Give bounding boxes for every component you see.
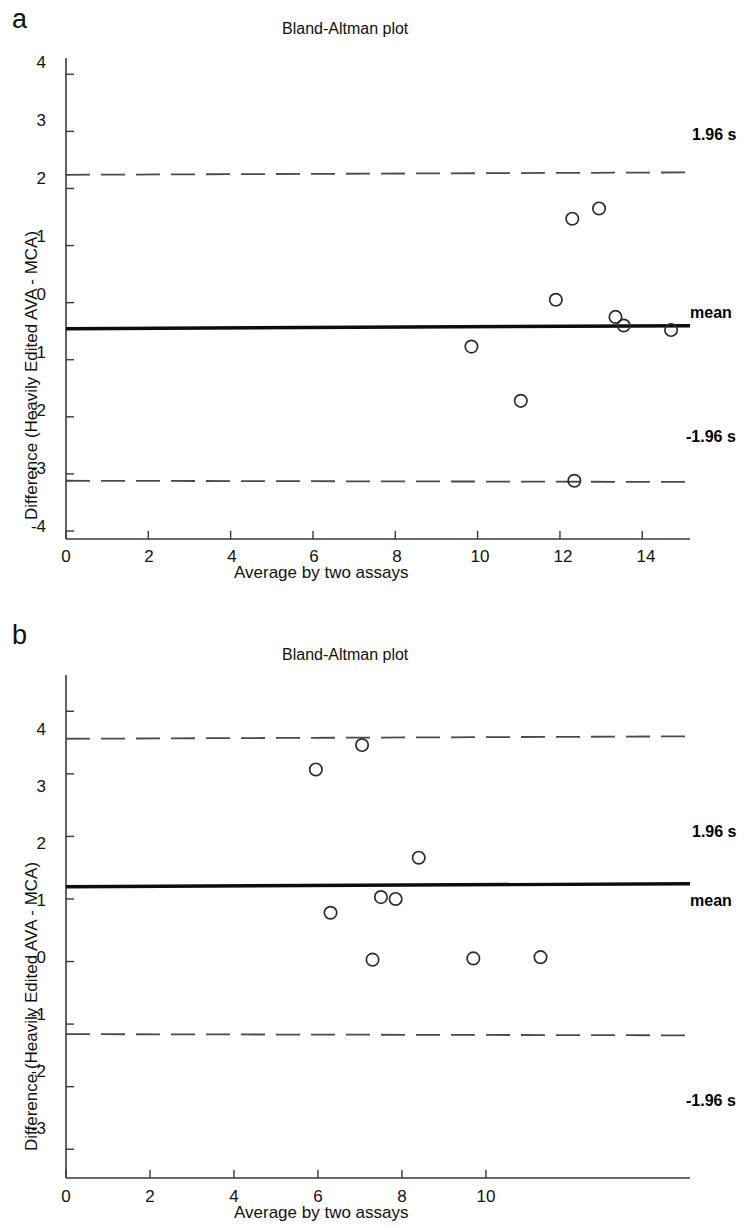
panel-b-y-tick-marks — [66, 711, 74, 1149]
data-point — [356, 739, 368, 751]
data-point — [550, 294, 562, 306]
panel-a-data-points — [465, 202, 677, 487]
panel-b-plot-area — [0, 600, 752, 1228]
panel-a-upper-limit-line — [66, 172, 690, 174]
panel-b-mean-line — [66, 884, 690, 887]
panel-b-data-points — [310, 739, 547, 966]
data-point — [467, 952, 479, 964]
panel-a-x-tick-marks — [66, 531, 642, 539]
panel-b-lower-limit-line — [66, 1034, 690, 1035]
data-point — [515, 395, 527, 407]
data-point — [534, 951, 546, 963]
panel-b-upper-limit-line — [66, 736, 690, 738]
data-point — [465, 340, 477, 352]
data-point — [593, 202, 605, 214]
data-point — [324, 907, 336, 919]
data-point — [366, 953, 378, 965]
panel-b-x-tick-marks — [66, 1170, 486, 1178]
data-point — [413, 851, 425, 863]
data-point — [375, 891, 387, 903]
panel-a-mean-line — [66, 326, 690, 329]
data-point — [568, 475, 580, 487]
data-point — [566, 213, 578, 225]
data-point — [389, 893, 401, 905]
data-point — [310, 763, 322, 775]
panel-a-y-tick-marks — [66, 74, 74, 531]
panel-b: b Bland-Altman plot Difference (Heavily … — [0, 600, 752, 1228]
panel-a-lower-limit-line — [66, 481, 690, 482]
bland-altman-figure: a Bland-Altman plot Difference (Heavily … — [0, 0, 752, 1228]
panel-a-plot-area — [0, 0, 752, 600]
panel-a: a Bland-Altman plot Difference (Heavily … — [0, 0, 752, 600]
